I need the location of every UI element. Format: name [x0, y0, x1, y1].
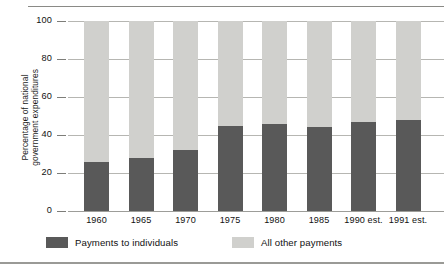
x-tick-label: 1960 [72, 215, 122, 225]
bar-segment-all-other-payments [173, 21, 198, 150]
bar-segment-all-other-payments [351, 21, 376, 122]
chart-figure: Percentage of national government expend… [0, 0, 444, 271]
y-tick-label: 0 [22, 205, 52, 215]
y-tick-label: 100 [22, 15, 52, 25]
x-tick-label: 1970 [161, 215, 211, 225]
gridline [68, 173, 444, 174]
x-tick-label: 1980 [250, 215, 300, 225]
y-tick-mark [57, 211, 66, 212]
x-tick-label: 1985 [294, 215, 344, 225]
bar-group [262, 21, 287, 211]
bar-group [218, 21, 243, 211]
top-divider [28, 6, 444, 7]
y-tick-mark [57, 21, 66, 22]
legend-swatch [232, 237, 254, 248]
bar-segment-all-other-payments [129, 21, 154, 158]
bar-segment-payments-to-individuals [129, 158, 154, 211]
bar-segment-all-other-payments [218, 21, 243, 126]
y-tick-label: 40 [22, 129, 52, 139]
y-tick-mark [57, 59, 66, 60]
chart-legend: Payments to individualsAll other payment… [0, 237, 444, 253]
y-tick-label: 80 [22, 53, 52, 63]
plot-area [68, 21, 444, 211]
legend-label: Payments to individuals [75, 237, 178, 248]
bar-group [173, 21, 198, 211]
x-tick-label: 1991 est. [383, 215, 433, 225]
x-tick-label: 1975 [205, 215, 255, 225]
gridline [68, 211, 444, 212]
bar-group [307, 21, 332, 211]
gridline [68, 135, 444, 136]
y-tick-label: 20 [22, 167, 52, 177]
x-tick-label: 1965 [116, 215, 166, 225]
bar-segment-all-other-payments [262, 21, 287, 124]
legend-label: All other payments [261, 237, 342, 248]
bar-segment-payments-to-individuals [307, 127, 332, 211]
y-tick-label: 60 [22, 91, 52, 101]
y-tick-mark [57, 135, 66, 136]
bar-segment-all-other-payments [396, 21, 421, 120]
x-tick-label: 1990 est. [339, 215, 389, 225]
bottom-divider [0, 262, 444, 264]
bar-segment-payments-to-individuals [262, 124, 287, 211]
y-tick-mark [57, 173, 66, 174]
gridline [68, 21, 444, 22]
bar-segment-all-other-payments [307, 21, 332, 127]
bar-group [351, 21, 376, 211]
bar-segment-payments-to-individuals [84, 162, 109, 211]
bar-segment-payments-to-individuals [173, 150, 198, 211]
bar-segment-payments-to-individuals [351, 122, 376, 211]
bar-segment-payments-to-individuals [218, 126, 243, 212]
legend-swatch [46, 237, 68, 248]
bar-segment-payments-to-individuals [396, 120, 421, 211]
bar-segment-all-other-payments [84, 21, 109, 162]
gridline [68, 97, 444, 98]
y-tick-mark [57, 97, 66, 98]
legend-item: Payments to individuals [46, 237, 178, 248]
gridline [68, 59, 444, 60]
bar-group [129, 21, 154, 211]
bar-group [396, 21, 421, 211]
legend-item: All other payments [232, 237, 342, 248]
bar-group [84, 21, 109, 211]
